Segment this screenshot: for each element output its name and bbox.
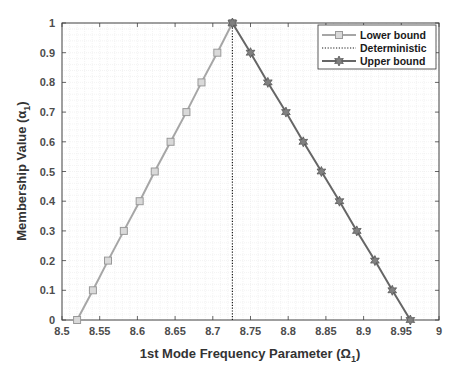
x-tick-label: 8.8 (281, 325, 296, 337)
square-marker-icon (183, 109, 190, 116)
y-tick-label: 0 (49, 314, 55, 326)
y-tick-label: 0.2 (40, 255, 55, 267)
square-marker-icon (167, 138, 174, 145)
square-marker-icon (104, 257, 111, 264)
square-marker-icon (214, 49, 221, 56)
y-tick-label: 0.4 (40, 195, 56, 207)
square-marker-icon (136, 198, 143, 205)
svg-text:Lower bound: Lower bound (360, 29, 426, 41)
x-tick-label: 8.6 (130, 325, 145, 337)
svg-text:Upper bound: Upper bound (360, 55, 425, 67)
y-tick-label: 0.9 (40, 47, 55, 59)
y-tick-label: 0.1 (40, 284, 55, 296)
y-axis-label: Membership Value (α1) (14, 101, 32, 240)
x-tick-label: 8.75 (240, 325, 261, 337)
square-marker-icon (336, 32, 343, 39)
y-tick-label: 0.3 (40, 225, 55, 237)
square-marker-icon (74, 317, 81, 324)
y-tick-label: 0.7 (40, 106, 55, 118)
y-tick-labels: 00.10.20.30.40.50.60.70.80.91 (40, 17, 56, 326)
membership-chart: 8.58.558.68.658.78.758.88.858.98.959 00.… (0, 0, 456, 376)
y-tick-label: 0.5 (40, 166, 55, 178)
x-tick-label: 8.9 (356, 325, 371, 337)
x-tick-label: 8.55 (89, 325, 110, 337)
svg-text:Deterministic: Deterministic (360, 42, 427, 54)
y-tick-label: 0.8 (40, 76, 55, 88)
x-tick-label: 8.7 (205, 325, 220, 337)
x-tick-label: 8.5 (54, 325, 69, 337)
series-lower-bound (74, 20, 236, 324)
y-tick-label: 0.6 (40, 136, 55, 148)
legend: Lower bound Deterministic Upper bound (318, 25, 436, 69)
square-marker-icon (151, 168, 158, 175)
x-tick-label: 9 (436, 325, 442, 337)
square-marker-icon (120, 227, 127, 234)
x-tick-label: 8.95 (391, 325, 412, 337)
x-tick-label: 8.85 (315, 325, 336, 337)
y-tick-label: 1 (49, 17, 55, 29)
square-marker-icon (89, 287, 96, 294)
x-tick-labels: 8.58.558.68.658.78.758.88.858.98.959 (54, 325, 442, 337)
x-axis-label: 1st Mode Frequency Parameter (Ω1) (140, 346, 361, 364)
x-tick-label: 8.65 (164, 325, 185, 337)
square-marker-icon (198, 79, 205, 86)
